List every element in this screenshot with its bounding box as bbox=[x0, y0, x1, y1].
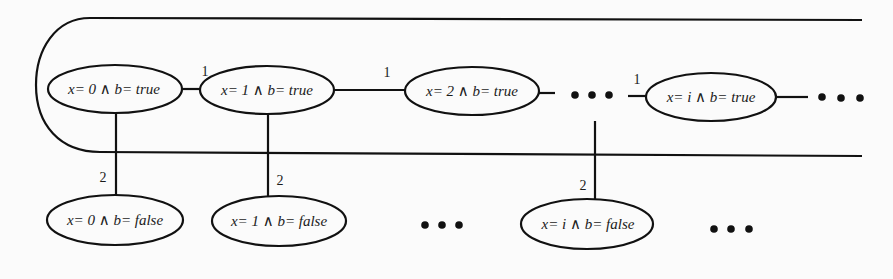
edge-label-t1-f1: 2 bbox=[277, 173, 284, 189]
ellipsis-dot bbox=[745, 225, 753, 233]
ellipsis-dot bbox=[856, 94, 864, 102]
edge-label-ti-fi: 2 bbox=[580, 178, 587, 194]
node-t1-label: x= 1 ∧ b= true bbox=[221, 81, 313, 99]
ellipsis-dot bbox=[421, 221, 429, 229]
edge-label-t0-f0: 2 bbox=[100, 170, 107, 186]
edge-label-t0-t1: 1 bbox=[202, 64, 209, 80]
node-t2-label: x= 2 ∧ b= true bbox=[426, 82, 518, 100]
node-fi-label: x= i ∧ b= false bbox=[542, 215, 635, 233]
ellipsis-dot bbox=[588, 91, 596, 99]
node-f1-label: x= 1 ∧ b= false bbox=[231, 212, 327, 230]
ellipsis-dot bbox=[455, 221, 463, 229]
node-f0-label: x= 0 ∧ b= false bbox=[67, 211, 163, 229]
node-ti-label: x= i ∧ b= true bbox=[667, 88, 756, 106]
ellipsis-dot bbox=[837, 94, 845, 102]
ellipsis-dot bbox=[818, 93, 826, 101]
ellipsis-dot bbox=[605, 91, 613, 99]
edge-label-t1-t2: 1 bbox=[384, 65, 391, 81]
ellipsis-dot bbox=[727, 225, 735, 233]
ellipsis-dot bbox=[571, 91, 579, 99]
ellipsis-dot bbox=[438, 221, 446, 229]
diagram-canvas: x= 0 ∧ b= true x= 1 ∧ b= true x= 2 ∧ b= … bbox=[0, 0, 893, 279]
edge-label-dots-ti: 1 bbox=[634, 72, 641, 88]
diagram-lines bbox=[0, 0, 893, 279]
ellipsis-dot bbox=[710, 225, 718, 233]
node-t0-label: x= 0 ∧ b= true bbox=[68, 80, 160, 98]
